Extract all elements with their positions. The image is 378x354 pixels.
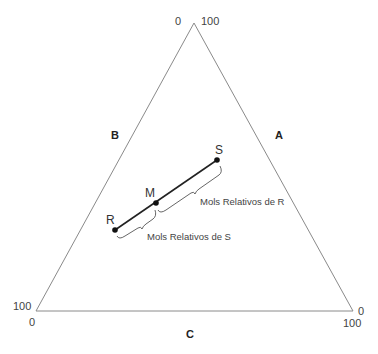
bottom-right-label-0: 0 bbox=[358, 305, 364, 317]
point-label-s: S bbox=[215, 143, 223, 157]
ternary-diagram: 0 100 100 0 0 100 B A C R M S Mols Relat… bbox=[0, 0, 378, 354]
bottom-left-label-0: 0 bbox=[29, 316, 35, 328]
label-mols-relativos-r: Mols Relativos de R bbox=[200, 196, 285, 207]
ternary-triangle bbox=[36, 23, 353, 311]
point-label-r: R bbox=[106, 213, 115, 227]
tie-line bbox=[115, 160, 217, 230]
label-mols-relativos-s: Mols Relativos de S bbox=[147, 231, 231, 242]
apex-label-right: 100 bbox=[201, 15, 219, 27]
bottom-left-label-100: 100 bbox=[13, 300, 31, 312]
point-label-m: M bbox=[145, 186, 155, 200]
side-label-a: A bbox=[275, 129, 283, 141]
bottom-right-label-100: 100 bbox=[343, 317, 361, 329]
side-label-b: B bbox=[111, 129, 119, 141]
point-r bbox=[112, 227, 118, 233]
side-label-c: C bbox=[186, 328, 194, 340]
apex-label-left: 0 bbox=[175, 15, 181, 27]
point-m bbox=[153, 200, 159, 206]
point-s bbox=[214, 157, 220, 163]
